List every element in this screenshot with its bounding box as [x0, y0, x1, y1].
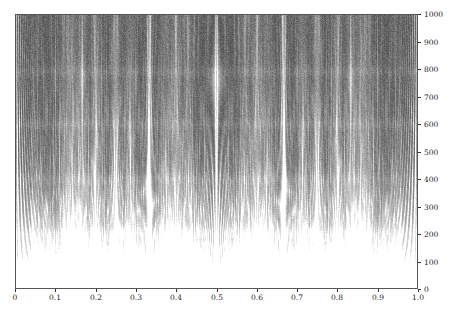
x-tick-label: 0.3 — [130, 293, 142, 302]
x-tick-label: 0.8 — [331, 293, 343, 302]
x-tick-mark — [55, 289, 56, 292]
x-tick-mark — [96, 289, 97, 292]
y-tick-label: 0 — [424, 285, 429, 294]
y-tick-mark — [418, 234, 421, 235]
x-tick-label: 0.5 — [211, 293, 223, 302]
x-tick-mark — [176, 289, 177, 292]
y-tick-mark — [418, 262, 421, 263]
x-tick-label: 0 — [13, 293, 18, 302]
x-tick-label: 0.2 — [90, 293, 102, 302]
x-tick-mark — [15, 289, 16, 292]
x-tick-label: 0.9 — [372, 293, 384, 302]
y-tick-mark — [418, 289, 421, 290]
x-tick-mark — [257, 289, 258, 292]
y-tick-label: 100 — [424, 258, 438, 267]
y-tick-label: 200 — [424, 230, 438, 239]
x-tick-label: 0.6 — [251, 293, 263, 302]
y-tick-label: 900 — [424, 38, 438, 47]
x-tick-label: 0.7 — [291, 293, 303, 302]
y-tick-mark — [418, 124, 421, 125]
density-heatmap — [15, 14, 418, 289]
y-tick-mark — [418, 207, 421, 208]
y-tick-mark — [418, 14, 421, 15]
y-tick-label: 600 — [424, 120, 438, 129]
plot-area — [15, 14, 418, 289]
x-tick-mark — [136, 289, 137, 292]
y-tick-label: 1000 — [424, 10, 443, 19]
y-tick-label: 400 — [424, 175, 438, 184]
x-tick-mark — [217, 289, 218, 292]
x-tick-mark — [378, 289, 379, 292]
y-tick-label: 700 — [424, 93, 438, 102]
x-tick-label: 1.0 — [412, 293, 424, 302]
y-tick-mark — [418, 152, 421, 153]
y-tick-mark — [418, 179, 421, 180]
y-tick-label: 800 — [424, 65, 438, 74]
x-tick-label: 0.1 — [49, 293, 61, 302]
x-tick-label: 0.4 — [170, 293, 182, 302]
figure-canvas: 00.10.20.30.40.50.60.70.80.91.0010020030… — [0, 0, 469, 321]
x-tick-mark — [297, 289, 298, 292]
y-tick-mark — [418, 42, 421, 43]
x-tick-mark — [337, 289, 338, 292]
y-tick-mark — [418, 69, 421, 70]
y-tick-mark — [418, 97, 421, 98]
y-tick-label: 500 — [424, 148, 438, 157]
y-tick-label: 300 — [424, 203, 438, 212]
